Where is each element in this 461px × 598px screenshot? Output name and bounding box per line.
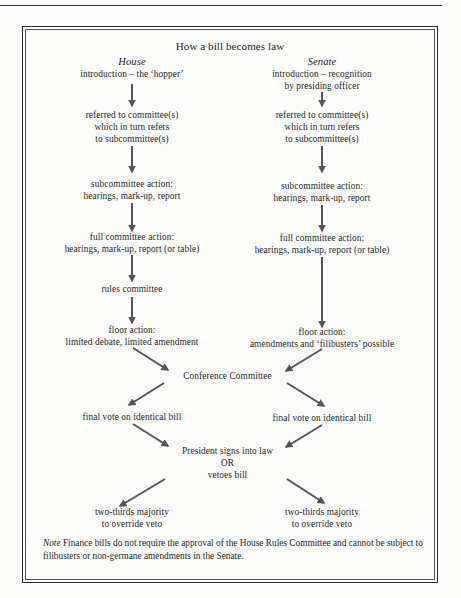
arrow-senate-to-conference <box>286 349 322 371</box>
senate-step-subcommittee: subcommittee action: hearings, mark-up, … <box>232 180 412 204</box>
senate-step-referred-label: referred to committee(s) which in turn r… <box>276 110 369 144</box>
president-action: President signs into law OR vetoes bill <box>160 445 295 481</box>
conference-committee: Conference Committee <box>160 370 295 382</box>
house-step-subcommittee-label: subcommittee action: hearings, mark-up, … <box>84 179 181 201</box>
house-step-introduction-label: introduction – the ‘hopper’ <box>80 69 183 79</box>
house-step-referred: referred to committee(s) which in turn r… <box>52 109 212 145</box>
arrow-senate-vote-to-president <box>286 425 322 447</box>
house-step-rules: rules committee <box>52 283 212 295</box>
arrow-president-to-house-override <box>120 479 165 506</box>
arrow-conference-to-senate-vote <box>287 383 324 406</box>
footnote: Note Finance bills do not require the ap… <box>43 537 428 563</box>
house-step-rules-label: rules committee <box>101 284 162 294</box>
house-heading: House <box>72 56 192 68</box>
diagram-title: How a bill becomes law <box>130 40 330 52</box>
senate-step-full-committee: full committee action: hearings, mark-up… <box>222 232 422 256</box>
arrow-conference-to-house-vote <box>129 383 164 405</box>
senate-step-full-committee-label: full committee action: hearings, mark-up… <box>255 233 390 255</box>
senate-step-introduction-label: introduction – recognition by presiding … <box>272 69 372 91</box>
house-step-full-committee-label: full committee action: hearings, mark-up… <box>65 232 200 254</box>
senate-override: two-thirds majority to override veto <box>262 506 382 530</box>
footnote-text: Finance bills do not require the approva… <box>43 538 423 561</box>
arrow-house-to-conference <box>133 348 168 370</box>
senate-step-floor: floor action: amendments and ‘filibuster… <box>222 326 422 350</box>
house-step-subcommittee: subcommittee action: hearings, mark-up, … <box>42 178 222 202</box>
senate-heading: Senate <box>262 56 382 68</box>
senate-step-introduction: introduction – recognition by presiding … <box>242 68 402 92</box>
senate-step-subcommittee-label: subcommittee action: hearings, mark-up, … <box>274 181 371 203</box>
house-override: two-thirds majority to override veto <box>72 506 192 530</box>
footnote-label: Note <box>43 538 61 548</box>
house-step-floor-label: floor action: limited debate, limited am… <box>66 325 199 347</box>
house-step-referred-label: referred to committee(s) which in turn r… <box>86 110 179 144</box>
senate-step-referred: referred to committee(s) which in turn r… <box>242 109 402 145</box>
house-step-introduction: introduction – the ‘hopper’ <box>52 68 212 80</box>
arrow-house-vote-to-president <box>133 424 168 446</box>
arrow-president-to-senate-override <box>287 479 324 503</box>
senate-step-floor-label: floor action: amendments and ‘filibuster… <box>250 327 394 349</box>
senate-final-vote: final vote on identical bill <box>252 412 392 424</box>
house-step-floor: floor action: limited debate, limited am… <box>32 324 232 348</box>
house-step-full-committee: full committee action: hearings, mark-up… <box>32 231 232 255</box>
house-final-vote: final vote on identical bill <box>62 411 202 423</box>
